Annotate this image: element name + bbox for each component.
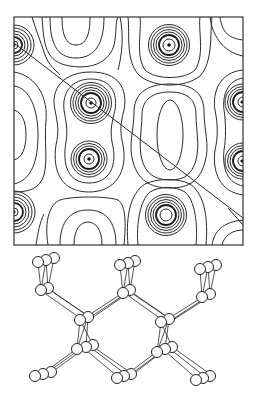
central-minimum	[131, 84, 207, 188]
atom-peak-left-lower	[0, 191, 35, 233]
cut-line	[14, 43, 243, 218]
atom-peak-mid-lower	[71, 141, 107, 177]
bottom-minimum	[36, 197, 125, 245]
atom-peak-bottom-center	[127, 180, 206, 246]
atom-peak-mid-upper	[71, 83, 112, 124]
atom-peak-right-upper	[225, 84, 256, 120]
contour-lines	[0, 17, 256, 245]
top-minimum	[32, 17, 122, 75]
atom-peak-right-lower	[225, 143, 256, 179]
atom-peak-top-center	[128, 17, 212, 85]
left-minimum	[14, 72, 46, 192]
contour-plot	[0, 0, 256, 250]
right-corner-contours	[210, 17, 243, 245]
envelope-mid-inner	[64, 79, 116, 183]
bonds	[38, 258, 216, 378]
atoms	[30, 253, 222, 386]
